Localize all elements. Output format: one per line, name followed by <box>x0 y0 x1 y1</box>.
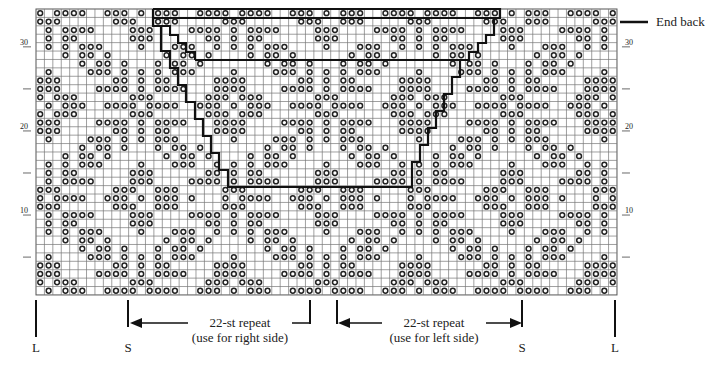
repeat-right-sublabel: (use for right side) <box>192 330 288 345</box>
marker-s-label: S <box>124 340 131 355</box>
repeat-left-label: 22-st repeat <box>403 315 464 330</box>
row-numbers-right: 102030 <box>622 38 633 257</box>
row-number: 20 <box>625 122 633 131</box>
row-number: 30 <box>625 38 633 47</box>
end-back-label: End back <box>656 14 705 29</box>
row-numbers-left: 102030 <box>20 38 31 257</box>
row-number: 20 <box>20 122 28 131</box>
knitting-chart: 102030 102030 End back LSSL 22-st repeat… <box>0 0 711 365</box>
marker-l-label: L <box>32 340 40 355</box>
row-number: 10 <box>20 206 28 215</box>
repeat-right-label: 22-st repeat <box>209 315 270 330</box>
row-number: 30 <box>20 38 28 47</box>
repeat-left-sublabel: (use for left side) <box>389 330 478 345</box>
chart-grid <box>36 9 617 295</box>
marker-s-label: S <box>518 340 525 355</box>
stitch-markers: LSSL <box>32 300 619 355</box>
row-number: 10 <box>625 206 633 215</box>
marker-l-label: L <box>611 340 619 355</box>
